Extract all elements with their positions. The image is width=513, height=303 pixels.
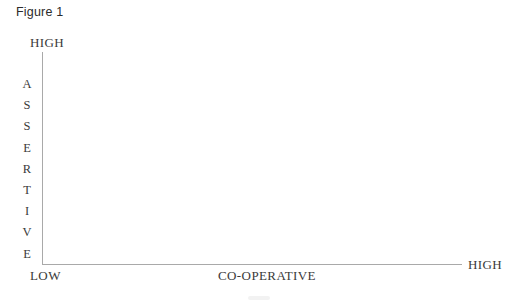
- y-axis-title-letter: I: [25, 201, 29, 222]
- y-axis-title-letter: T: [23, 180, 31, 201]
- x-axis-low-label: LOW: [30, 268, 61, 283]
- figure-canvas: Figure 1 HIGH A S S E R T I V E LOW CO-O…: [0, 0, 513, 303]
- figure-caption: Figure 1: [16, 5, 63, 20]
- y-axis-title-letter: S: [24, 95, 31, 116]
- y-axis-title-letter: V: [22, 222, 31, 243]
- scan-artifact: [248, 296, 270, 300]
- x-axis-high-label: HIGH: [468, 257, 502, 272]
- x-axis-title: CO-OPERATIVE: [218, 268, 316, 283]
- y-axis-title: A S S E R T I V E: [19, 74, 35, 265]
- y-axis-high-label: HIGH: [30, 35, 64, 50]
- y-axis-title-letter: A: [22, 74, 31, 95]
- y-axis-title-letter: S: [24, 116, 31, 137]
- y-axis-title-letter: E: [23, 138, 31, 159]
- plot-area: [43, 52, 462, 264]
- y-axis-title-letter: E: [23, 244, 31, 265]
- y-axis-title-letter: R: [23, 159, 31, 180]
- x-axis-line: [42, 264, 462, 265]
- y-axis-line: [42, 52, 43, 265]
